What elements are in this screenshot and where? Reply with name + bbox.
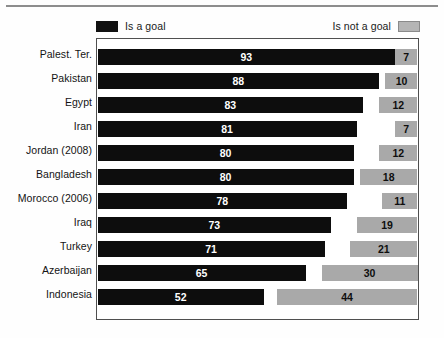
chart-legend: Is a goal Is not a goal (96, 20, 420, 36)
bar-segment-is-a-goal: 80 (98, 169, 354, 185)
bar-segment-is-not-a-goal: 12 (379, 145, 417, 161)
bar-segment-is-a-goal: 73 (98, 217, 332, 233)
stacked-bar-track: 7121 (98, 241, 418, 257)
bar-row: Jordan (2008)8012 (0, 141, 444, 165)
bar-segment-is-not-a-goal: 11 (382, 193, 417, 209)
bar-row: Turkey7121 (0, 237, 444, 261)
bar-row: Egypt8312 (0, 93, 444, 117)
category-label: Bangladesh (0, 168, 92, 180)
chart-figure: Is a goal Is not a goal Palest. Ter.937P… (0, 0, 444, 338)
bar-value-is-a-goal: 52 (175, 292, 187, 303)
bar-row: Pakistan8810 (0, 69, 444, 93)
legend-label-is-a-goal: Is a goal (125, 20, 166, 32)
bar-row: Iran817 (0, 117, 444, 141)
stacked-bar-track: 8018 (98, 169, 418, 185)
bar-row: Azerbaijan6530 (0, 261, 444, 285)
stacked-bar-track: 7811 (98, 193, 418, 209)
bar-segment-neither (357, 121, 395, 137)
category-label: Egypt (0, 96, 92, 108)
bar-segment-is-a-goal: 80 (98, 145, 354, 161)
stacked-bar-track: 937 (98, 49, 418, 65)
bar-segment-is-a-goal: 83 (98, 97, 364, 113)
bar-segment-is-not-a-goal: 19 (357, 217, 418, 233)
bar-value-is-not-a-goal: 18 (383, 172, 395, 183)
bar-value-is-not-a-goal: 7 (403, 52, 409, 63)
bar-value-is-a-goal: 81 (221, 124, 233, 135)
bar-value-is-not-a-goal: 44 (341, 292, 353, 303)
gray-square-swatch-icon (398, 21, 420, 32)
legend-item-is-not-a-goal: Is not a goal (332, 20, 420, 32)
bar-segment-neither (264, 289, 277, 305)
bar-segment-is-a-goal: 88 (98, 73, 380, 89)
black-square-swatch-icon (96, 21, 118, 32)
stacked-bar-track: 8312 (98, 97, 418, 113)
bar-segment-neither (363, 97, 379, 113)
category-label: Iraq (0, 216, 92, 228)
bar-segment-is-a-goal: 93 (98, 49, 396, 65)
category-label: Indonesia (0, 288, 92, 300)
top-divider-rule (6, 5, 438, 7)
bar-segment-is-not-a-goal: 12 (379, 97, 417, 113)
bar-value-is-not-a-goal: 11 (394, 196, 405, 207)
bar-value-is-a-goal: 83 (224, 100, 236, 111)
category-label: Turkey (0, 240, 92, 252)
bar-value-is-not-a-goal: 30 (364, 268, 376, 279)
bar-segment-is-not-a-goal: 10 (385, 73, 417, 89)
bar-value-is-not-a-goal: 21 (378, 244, 390, 255)
bar-row: Indonesia5244 (0, 285, 444, 309)
bar-segment-is-a-goal: 81 (98, 121, 357, 137)
legend-label-is-not-a-goal: Is not a goal (332, 20, 391, 32)
bar-segment-neither (331, 217, 357, 233)
stacked-bar-track: 817 (98, 121, 418, 137)
legend-item-is-a-goal: Is a goal (96, 20, 166, 32)
bar-segment-is-not-a-goal: 30 (322, 265, 418, 281)
stacked-bar-track: 8012 (98, 145, 418, 161)
stacked-bar-track: 7319 (98, 217, 418, 233)
category-label: Pakistan (0, 72, 92, 84)
bar-segment-neither (306, 265, 322, 281)
category-label: Azerbaijan (0, 264, 92, 276)
bar-segment-is-a-goal: 71 (98, 241, 325, 257)
bar-segment-neither (354, 145, 380, 161)
category-label: Palest. Ter. (0, 48, 92, 60)
category-label: Morocco (2006) (0, 192, 92, 204)
bar-segment-is-a-goal: 65 (98, 265, 306, 281)
bar-segment-is-not-a-goal: 7 (395, 49, 417, 65)
bar-row: Iraq7319 (0, 213, 444, 237)
bar-value-is-not-a-goal: 10 (396, 76, 408, 87)
bar-value-is-a-goal: 65 (196, 268, 208, 279)
bar-value-is-a-goal: 88 (232, 76, 244, 87)
bar-value-is-not-a-goal: 12 (392, 100, 404, 111)
bar-segment-neither (347, 193, 382, 209)
bar-value-is-a-goal: 93 (240, 52, 252, 63)
bar-value-is-a-goal: 78 (216, 196, 228, 207)
category-label: Jordan (2008) (0, 144, 92, 156)
bar-segment-is-not-a-goal: 21 (350, 241, 417, 257)
bar-value-is-a-goal: 80 (220, 172, 232, 183)
bar-value-is-a-goal: 73 (208, 220, 220, 231)
bar-row: Morocco (2006)7811 (0, 189, 444, 213)
bar-value-is-not-a-goal: 19 (381, 220, 393, 231)
bar-segment-is-a-goal: 52 (98, 289, 264, 305)
bar-row: Bangladesh8018 (0, 165, 444, 189)
bar-segment-is-not-a-goal: 7 (395, 121, 417, 137)
bar-segment-is-not-a-goal: 44 (277, 289, 418, 305)
stacked-bar-track: 5244 (98, 289, 418, 305)
bar-value-is-a-goal: 80 (220, 148, 232, 159)
category-label: Iran (0, 120, 92, 132)
bar-segment-is-a-goal: 78 (98, 193, 348, 209)
bar-row: Palest. Ter.937 (0, 45, 444, 69)
stacked-bar-track: 8810 (98, 73, 418, 89)
bar-value-is-a-goal: 71 (205, 244, 217, 255)
bar-rows-container: Palest. Ter.937Pakistan8810Egypt8312Iran… (0, 38, 444, 320)
bar-value-is-not-a-goal: 7 (403, 124, 409, 135)
stacked-bar-track: 6530 (98, 265, 418, 281)
bar-segment-is-not-a-goal: 18 (360, 169, 418, 185)
bar-value-is-not-a-goal: 12 (392, 148, 404, 159)
bar-segment-neither (325, 241, 351, 257)
